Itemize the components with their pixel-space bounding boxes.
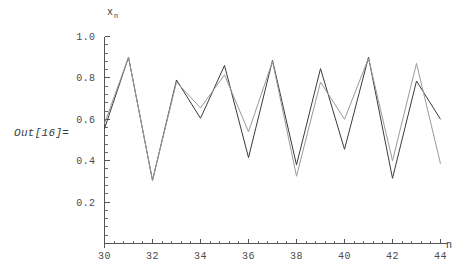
x-axis: 3032343638404244	[98, 239, 447, 262]
y-axis-title: x	[107, 7, 113, 18]
y-axis: 0.20.40.60.81.0	[76, 32, 109, 248]
x-axis-title: n	[446, 240, 452, 251]
x-tick-label: 44	[434, 251, 447, 262]
x-tick-label: 42	[386, 251, 399, 262]
x-tick-label: 40	[338, 251, 351, 262]
y-tick-label: 0.6	[76, 115, 95, 126]
series-line-trajectory-b	[105, 57, 441, 180]
x-tick-label: 32	[146, 251, 159, 262]
x-tick-label: 38	[290, 251, 303, 262]
data-series-group	[105, 57, 441, 180]
y-tick-label: 0.4	[76, 156, 95, 167]
x-tick-label: 36	[242, 251, 255, 262]
series-line-trajectory-a	[105, 57, 441, 180]
x-tick-label: 30	[98, 251, 111, 262]
x-tick-label: 34	[194, 251, 207, 262]
mathematica-output-cell: Out[16]= 0.20.40.60.81.0 303234363840424…	[0, 0, 459, 276]
y-tick-label: 0.2	[76, 198, 95, 209]
line-chart: 0.20.40.60.81.0 3032343638404244 xnn	[0, 0, 459, 276]
y-axis-title-subscript: n	[114, 12, 118, 20]
y-tick-label: 1.0	[76, 32, 95, 43]
plot-area: 0.20.40.60.81.0 3032343638404244 xnn	[0, 0, 459, 276]
y-tick-label: 0.8	[76, 73, 95, 84]
